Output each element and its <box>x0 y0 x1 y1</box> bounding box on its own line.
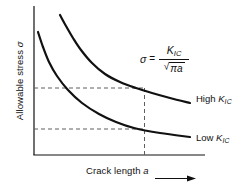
curve-label-low-kic: Low KIC <box>196 133 230 144</box>
formula-denominator: √πa <box>164 60 185 74</box>
stress-intensity-formula: σ = KIC √πa <box>140 44 189 74</box>
sigma-symbol: σ <box>14 41 25 47</box>
formula-radicand: πa <box>169 62 184 74</box>
curve-label-high-kic: High KIC <box>196 94 232 105</box>
curve-label-low-subscript: IC <box>222 137 229 144</box>
fracture-toughness-figure: Allowable stress σ Crack length a σ = KI… <box>0 0 251 187</box>
formula-numerator: KIC <box>165 44 184 59</box>
formula-lhs: σ <box>140 53 146 65</box>
formula-numerator-symbol: K <box>167 44 174 56</box>
crack-length-symbol: a <box>143 165 148 176</box>
curve-label-high-subscript: IC <box>225 98 232 105</box>
x-axis-label: Crack length a <box>86 166 149 176</box>
x-axis-label-text: Crack length <box>86 165 143 176</box>
y-axis-label: Allowable stress σ <box>15 17 25 145</box>
curve-label-high-text: High <box>196 93 218 104</box>
formula-numerator-subscript: IC <box>174 49 182 58</box>
formula-fraction: KIC √πa <box>159 44 189 74</box>
right-arrow-icon <box>155 169 197 178</box>
curve-label-low-text: Low <box>196 132 216 143</box>
y-axis-label-text: Allowable stress <box>14 47 25 120</box>
formula-equals: = <box>149 53 155 64</box>
